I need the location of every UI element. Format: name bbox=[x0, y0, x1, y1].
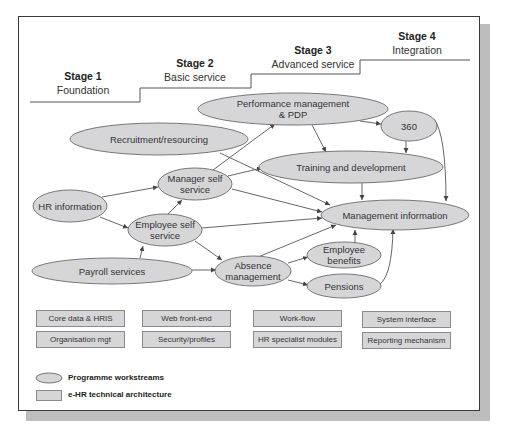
arch-box-reporting-mechanism: Reporting mechanism bbox=[362, 332, 451, 349]
node-manager-line2: service bbox=[168, 184, 223, 195]
node-recruitment: Recruitment/resourcing bbox=[70, 123, 248, 155]
edge-employee-mgmtinfo bbox=[202, 218, 322, 228]
edge-absence-pensions bbox=[288, 280, 308, 285]
stage-2-desc: Basic service bbox=[140, 70, 250, 84]
node-360: 360 bbox=[381, 111, 437, 141]
edge-pensions-mgmtinfo bbox=[380, 229, 393, 284]
node-mgmtinfo: Management information bbox=[321, 200, 469, 230]
edge-payroll-employee bbox=[140, 246, 143, 258]
node-benefits-line2: benefits bbox=[323, 255, 365, 266]
node-employee-line1: Employee self bbox=[135, 219, 195, 230]
node-payroll-label: Payroll services bbox=[79, 266, 146, 277]
stage-1-number: Stage 1 bbox=[28, 69, 138, 83]
arch-box-core-data: Core data & HRIS bbox=[36, 310, 125, 327]
edge-performance-training bbox=[312, 125, 326, 152]
node-training-label: Training and development bbox=[296, 162, 406, 173]
arch-box-system-interface: System interface bbox=[362, 311, 451, 328]
node-manager-line1: Manager self bbox=[168, 173, 223, 184]
legend-rect-icon bbox=[36, 390, 62, 401]
stage-2-number: Stage 2 bbox=[140, 56, 250, 70]
node-hrinfo: HR information bbox=[33, 190, 107, 222]
arch-box-organisation-mgt: Organisation mgt bbox=[36, 331, 125, 348]
arch-box-work-flow: Work-flow bbox=[253, 310, 342, 327]
edge-hrinfo-manager bbox=[102, 187, 158, 197]
node-absence: Absencemanagement bbox=[215, 256, 291, 286]
node-benefits: Employeebenefits bbox=[307, 242, 381, 268]
node-performance-line2: & PDP bbox=[237, 109, 349, 120]
stage-2: Stage 2 Basic service bbox=[140, 56, 250, 84]
node-performance-line1: Performance management bbox=[237, 98, 349, 109]
stage-3-desc: Advanced service bbox=[258, 57, 368, 71]
node-training: Training and development bbox=[259, 151, 443, 183]
legend-architecture-label: e-HR technical architecture bbox=[68, 390, 172, 399]
edge-absence-benefits bbox=[288, 257, 308, 263]
arch-box-hr-specialist-modules: HR specialist modules bbox=[253, 331, 342, 348]
node-pensions-label: Pensions bbox=[324, 281, 363, 292]
node-recruitment-label: Recruitment/resourcing bbox=[110, 134, 208, 145]
edge-employee-manager bbox=[168, 200, 182, 214]
stage-4-desc: Integration bbox=[362, 43, 472, 57]
node-employee: Employee selfservice bbox=[128, 214, 202, 246]
node-benefits-line1: Employee bbox=[323, 244, 365, 255]
node-employee-line2: service bbox=[135, 230, 195, 241]
stage-3: Stage 3 Advanced service bbox=[258, 43, 368, 71]
edge-manager-mgmtinfo bbox=[232, 189, 322, 212]
stage-1: Stage 1 Foundation bbox=[28, 69, 138, 97]
node-performance: Performance management& PDP bbox=[198, 93, 388, 125]
node-mgmtinfo-label: Management information bbox=[342, 210, 447, 221]
legend-workstreams-label: Programme workstreams bbox=[68, 373, 164, 382]
arch-box-security-profiles: Security/profiles bbox=[142, 331, 231, 348]
node-payroll: Payroll services bbox=[32, 258, 192, 284]
stage-1-desc: Foundation bbox=[28, 83, 138, 97]
node-360-label: 360 bbox=[401, 121, 417, 132]
stage-4-number: Stage 4 bbox=[362, 29, 472, 43]
stage-3-number: Stage 3 bbox=[258, 43, 368, 57]
arch-box-web-front-end: Web front-end bbox=[142, 310, 231, 327]
node-hrinfo-label: HR information bbox=[38, 201, 101, 212]
node-absence-line2: management bbox=[225, 271, 280, 282]
node-pensions: Pensions bbox=[307, 274, 381, 298]
stage-4: Stage 4 Integration bbox=[362, 29, 472, 57]
node-absence-line1: Absence bbox=[225, 260, 280, 271]
edge-manager-training bbox=[228, 168, 262, 176]
node-manager: Manager selfservice bbox=[158, 168, 232, 200]
legend-ellipse-icon bbox=[36, 373, 62, 383]
